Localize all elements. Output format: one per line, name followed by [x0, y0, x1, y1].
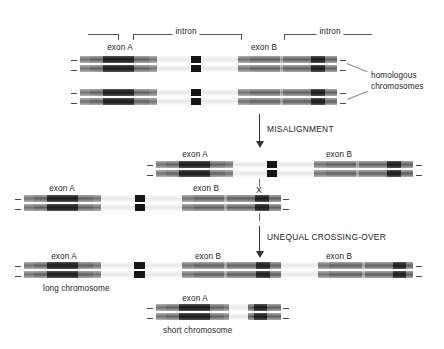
chromatid — [24, 195, 281, 202]
chromosome-band — [194, 271, 225, 278]
chromosome-band — [80, 89, 90, 96]
chromosome-band — [406, 271, 413, 278]
end-tick — [147, 308, 153, 309]
chromosome-band — [157, 89, 190, 96]
chromosome-band — [90, 89, 103, 96]
chromosome-band — [78, 271, 93, 278]
end-tick — [283, 308, 289, 309]
chromosome-band — [156, 304, 166, 311]
chromosome-band — [182, 271, 194, 278]
chromosome-band — [179, 304, 210, 311]
chromosome-band — [329, 271, 362, 278]
end-tick — [283, 209, 289, 210]
chromosome-band — [145, 271, 182, 278]
chromosome-band — [318, 271, 330, 278]
chromosome-band — [227, 204, 255, 211]
chromatid — [156, 304, 281, 311]
chromosome-band — [182, 204, 194, 211]
chromosome-band — [210, 170, 225, 177]
label-exon-b-long-first: exon B — [195, 252, 221, 262]
label-misalignment: MISALIGNMENT — [267, 124, 334, 134]
chromosome-band — [24, 195, 34, 202]
chromosome-band — [238, 56, 250, 63]
end-tick — [340, 93, 346, 94]
chromosome-band — [201, 56, 238, 63]
label-chromosomes: chromosomes — [371, 82, 424, 92]
chromosome-band — [325, 98, 337, 105]
chromosome-band — [134, 271, 145, 278]
arrow-crossing-over — [259, 226, 260, 252]
chromosome-band — [311, 89, 325, 96]
chromosome-band — [250, 56, 281, 63]
figure-canvas: intron intron exon A exon B homologous c… — [0, 0, 444, 349]
end-tick — [147, 175, 153, 176]
chromosome-band — [34, 262, 47, 269]
chromosome-band — [90, 56, 103, 63]
arrow-misalignment — [259, 114, 260, 142]
chromosome-band — [47, 271, 78, 278]
label-exon-b-mid-upper: exon B — [326, 150, 352, 160]
chromosome-band — [156, 313, 166, 320]
chromosome-band — [47, 262, 78, 269]
chromosome-band — [191, 56, 201, 63]
chromosome-band — [329, 262, 362, 269]
crossover-connector-lower — [259, 213, 260, 221]
chromosome-band — [233, 161, 266, 168]
chromosome-band — [47, 204, 78, 211]
chromosome-band — [157, 56, 190, 63]
chromosome-band — [194, 204, 225, 211]
chromosome-band — [365, 271, 393, 278]
chromosome-band — [194, 262, 225, 269]
chromosome-band — [80, 56, 90, 63]
chromosome-band — [135, 204, 145, 211]
end-tick — [71, 70, 77, 71]
chromosome-band — [365, 262, 393, 269]
label-exon-a-mid-lower: exon A — [49, 184, 75, 194]
label-exon-a-short: exon A — [182, 294, 208, 304]
chromosome-band — [326, 170, 357, 177]
chromosome-band — [201, 65, 238, 72]
chromosome-band — [326, 161, 357, 168]
chromosome-band — [311, 56, 325, 63]
chromosome-band — [149, 89, 157, 96]
chromosome-band — [182, 195, 194, 202]
chromosome-band — [78, 195, 93, 202]
label-exon-b-mid-lower: exon B — [193, 184, 219, 194]
chromosome-band — [281, 271, 318, 278]
end-tick — [340, 103, 346, 104]
chromosome-band — [238, 89, 250, 96]
chromosome-band — [191, 89, 201, 96]
end-tick — [416, 276, 422, 277]
chromatid — [156, 161, 413, 168]
chromosome-band — [227, 271, 256, 278]
chromosome-band — [256, 262, 270, 269]
chromosome-band — [269, 204, 281, 211]
chromatid — [24, 271, 413, 278]
chromatid — [80, 89, 337, 96]
chromosome-band — [145, 204, 182, 211]
chromosome-band — [267, 161, 277, 168]
end-tick — [416, 175, 422, 176]
chromosome-band — [93, 204, 101, 211]
chromosome-long — [24, 262, 413, 280]
chromosome-band — [103, 65, 134, 72]
chromosome-band — [182, 262, 194, 269]
chromosome-homolog-2 — [80, 89, 337, 107]
chromosome-band — [156, 170, 166, 177]
chromosome-band — [156, 161, 166, 168]
chromosome-band — [34, 195, 47, 202]
caption-short-chromosome: short chromosome — [163, 326, 232, 336]
chromosome-band — [325, 89, 337, 96]
chromosome-band — [101, 271, 134, 278]
chromosome-band — [314, 170, 326, 177]
chromosome-band — [277, 161, 314, 168]
chromosome-band — [406, 262, 413, 269]
end-tick — [15, 209, 21, 210]
chromosome-band — [233, 170, 266, 177]
chromosome-band — [179, 313, 210, 320]
chromatid — [24, 204, 281, 211]
chromosome-band — [149, 98, 157, 105]
chromosome-band — [210, 161, 225, 168]
label-intron-right: intron — [316, 27, 343, 37]
chromosome-band — [283, 89, 311, 96]
